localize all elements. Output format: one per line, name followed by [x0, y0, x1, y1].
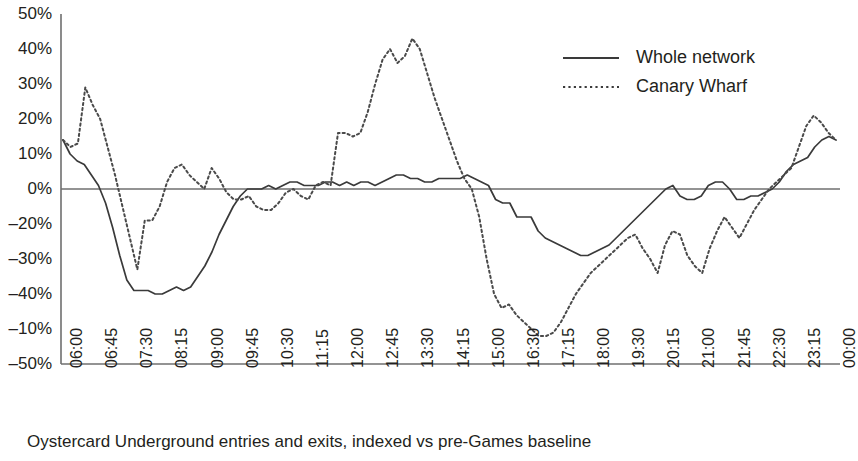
legend-label: Whole network [636, 47, 755, 68]
chart-caption: Oystercard Underground entries and exits… [27, 432, 591, 452]
legend-label: Canary Wharf [636, 76, 747, 97]
